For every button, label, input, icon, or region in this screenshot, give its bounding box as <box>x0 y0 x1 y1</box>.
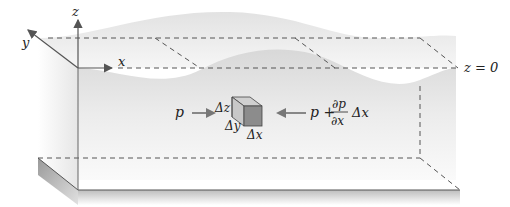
right-pressure-frac-num: ∂p <box>332 97 346 111</box>
right-pressure-label-dx: Δx <box>351 105 369 120</box>
surface-z0-label: z = 0 <box>463 60 498 75</box>
dx-label: Δx <box>246 128 263 142</box>
base-slab-front <box>78 190 460 205</box>
wave-surface-front <box>78 49 456 180</box>
x-axis-label: x <box>118 54 126 69</box>
z-axis-label: z <box>71 4 79 19</box>
cube-front-face <box>244 106 262 126</box>
left-pressure-label: p <box>175 104 184 120</box>
diagram-svg: z y x z = 0 Δz Δy Δx p p + ∂p ∂x Δx <box>0 0 510 207</box>
wave-pressure-diagram: z y x z = 0 Δz Δy Δx p p + ∂p ∂x Δx <box>0 0 510 207</box>
dy-label: Δy <box>224 119 241 133</box>
dz-label: Δz <box>214 101 231 115</box>
right-pressure-frac-den: ∂x <box>331 114 344 128</box>
y-axis-label: y <box>21 35 30 50</box>
